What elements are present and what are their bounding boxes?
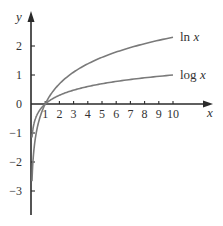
y-axis-arrow-icon [28, 11, 35, 22]
x-tick-label: 10 [167, 107, 179, 121]
y-tick-label: 0 [16, 97, 22, 111]
y-tick-label: 2 [16, 39, 22, 53]
x-tick-label: 5 [99, 107, 105, 121]
x-tick-label: 2 [56, 107, 62, 121]
log-x-label: log x [180, 67, 206, 82]
x-tick-label: 6 [113, 107, 119, 121]
x-tick-label: 3 [71, 107, 77, 121]
y-tick-label: −3 [9, 184, 22, 198]
x-tick-label: 4 [85, 107, 91, 121]
x-tick-label: 1 [42, 107, 48, 121]
plot-area: 12345678910−3−2−1012ln xlog xxy [0, 0, 223, 226]
y-axis-label: y [14, 9, 22, 24]
logarithm-chart: 12345678910−3−2−1012ln xlog xxy [0, 0, 223, 226]
y-tick-label: −2 [9, 155, 22, 169]
x-axis-label: x [206, 105, 213, 120]
ln-x-label: ln x [180, 29, 199, 44]
x-tick-label: 9 [156, 107, 162, 121]
y-tick-label: 1 [16, 68, 22, 82]
y-tick-label: −1 [9, 126, 22, 140]
x-tick-label: 7 [127, 107, 133, 121]
x-tick-label: 8 [142, 107, 148, 121]
